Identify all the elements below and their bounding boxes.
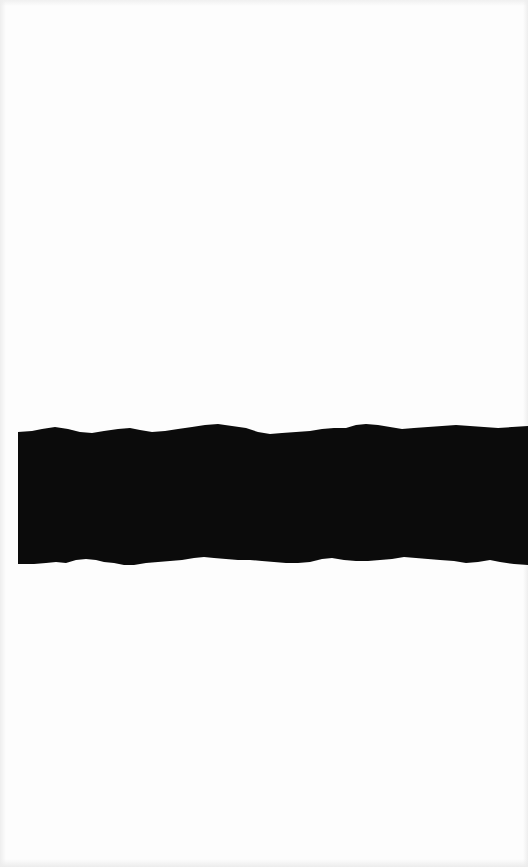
redaction-band xyxy=(0,0,528,867)
document-page xyxy=(0,0,528,867)
